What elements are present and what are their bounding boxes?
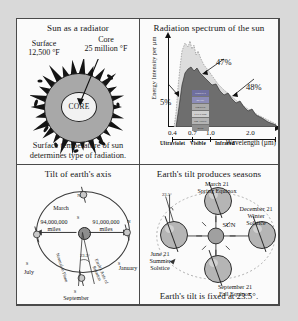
spectrum-pct-infrared: 48% xyxy=(246,82,262,92)
region-tick-0.7 xyxy=(210,137,211,142)
spectrum-x-tick-labels: 0.4 0.7 1.0 2.0 xyxy=(168,129,278,138)
spectrum-x-axis-label: Wavelength (µm) xyxy=(226,139,276,147)
color-band-blue: BLUE xyxy=(192,97,209,104)
color-band-green: GREEN xyxy=(192,104,209,111)
tilt-pole-n-top: N xyxy=(75,193,83,198)
seasons-march-date: March 21 xyxy=(205,180,229,187)
panel-sun-as-radiator: Sun as a radiator Surface 12,500 °F Core… xyxy=(16,18,140,165)
tilt-pole-s-right: S xyxy=(115,261,123,266)
visible-color-bands-legend: VIOLET BLUE GREEN YELLOW ORANGE RED xyxy=(192,90,209,126)
tilt-pole-s-top: S xyxy=(74,215,82,220)
seasons-march-event: Spring Equinox xyxy=(197,187,236,194)
sun-core-value: 25 million °F xyxy=(85,44,128,53)
tilt-distance-left-unit: miles xyxy=(48,226,61,232)
sun-surface-value: 12,500 °F xyxy=(28,48,60,57)
seasons-december-event1: Winter xyxy=(248,212,265,219)
tilt-distance-right: 91,000,000 miles xyxy=(85,219,127,233)
region-label-visible: Visible xyxy=(190,140,206,146)
tilt-month-july: July xyxy=(19,269,39,276)
panel-spectrum-title: Radiation spectrum of the sun xyxy=(140,19,278,34)
spectrum-y-axis-label: Energy Intensity per µm xyxy=(151,30,157,106)
sun-caption-line2: determines type of radiation. xyxy=(17,151,139,161)
sun-core-label-group: Core 25 million °F xyxy=(75,35,137,53)
seasons-tilt-angle: 23.5° xyxy=(158,192,176,197)
x-tick-2.0: 2.0 xyxy=(246,129,255,137)
tilt-distance-right-unit: miles xyxy=(100,226,113,232)
seasons-label-march: March 21 Spring Equinox xyxy=(186,180,248,194)
tilt-pole-s-left: S xyxy=(23,261,31,266)
x-tick-0.7: 0.7 xyxy=(188,129,197,137)
seasons-june-event1: Summer xyxy=(150,257,171,264)
tilt-month-september: September xyxy=(55,295,97,302)
region-label-ultraviolet: Ultraviolet xyxy=(160,140,185,146)
sun-surface-label-group: Surface 12,500 °F xyxy=(22,39,66,57)
tilt-distance-left-value: 94,000,000 xyxy=(41,219,68,225)
seasons-june-date: June 21 xyxy=(150,250,169,257)
x-tick-0.4: 0.4 xyxy=(168,129,177,137)
spectrum-pct-ultraviolet: 5% xyxy=(160,97,171,107)
seasons-june-event2: Solstice xyxy=(150,264,170,271)
tilt-pole-s-bottom: S xyxy=(71,289,79,294)
panel-sun-title: Sun as a radiator xyxy=(17,19,139,34)
spectrum-pct-visible: 47% xyxy=(216,57,232,67)
tilt-diagram-lines xyxy=(17,165,139,305)
color-band-violet: VIOLET xyxy=(192,90,209,97)
seasons-label-june: June 21 Summer Solstice xyxy=(140,250,180,271)
panel-earths-tilt-produces-seasons: Earth's tilt produces seasons xyxy=(139,164,279,305)
seasons-september-date: September 21 xyxy=(218,283,252,290)
tilt-distance-left: 94,000,000 miles xyxy=(33,219,75,233)
tilt-month-march: March xyxy=(45,205,77,212)
seasons-december-event2: Solstice xyxy=(246,219,266,226)
seasons-sun-label: SUN xyxy=(216,221,242,228)
tilt-pole-n-right: N xyxy=(125,219,133,224)
panel-tilt-of-earths-axis: Tilt of earth's axis xyxy=(16,164,140,305)
figure-sheet: Sun as a radiator Surface 12,500 °F Core… xyxy=(16,18,280,306)
seasons-december-date: December 21 xyxy=(239,205,272,212)
tilt-distance-right-value: 91,000,000 xyxy=(93,219,120,225)
seasons-caption: Earth's tilt is fixed at 23.5°. xyxy=(140,292,278,302)
sun-core-label: Core xyxy=(98,35,114,44)
sun-caption-line1: Surface temperature of sun xyxy=(17,141,139,151)
color-band-orange: ORANGE xyxy=(192,118,209,125)
sun-surface-label: Surface xyxy=(32,39,56,48)
x-tick-1.0: 1.0 xyxy=(206,129,215,137)
color-band-yellow: YELLOW xyxy=(192,111,209,118)
panel-radiation-spectrum: Radiation spectrum of the sun Energy Int… xyxy=(139,18,279,165)
